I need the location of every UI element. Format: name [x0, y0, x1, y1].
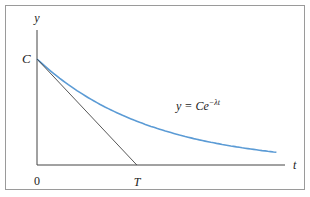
curve-label-base: y = Ce: [175, 99, 209, 113]
x-tick-origin: 0: [34, 174, 40, 188]
tangent-line: [37, 59, 137, 165]
y-tick-C: C: [22, 51, 31, 66]
curve-label: y = Ce−λt: [175, 98, 221, 113]
x-tick-T: T: [134, 175, 142, 189]
y-axis-label: y: [33, 11, 40, 25]
curve-label-exponent: −λt: [209, 98, 221, 107]
exponential-curve: [37, 59, 276, 152]
decay-chart: y t C 0 T y = Ce−λt: [0, 0, 310, 197]
x-axis-label: t: [293, 158, 297, 172]
